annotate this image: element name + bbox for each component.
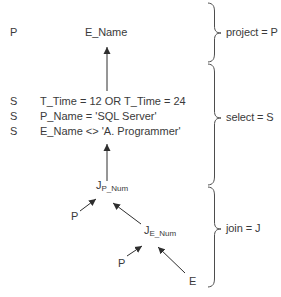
select-condition: E_Name <> 'A. Programmer' [40,125,181,137]
join-subscript: E_Num [149,229,176,238]
legend-join-label: join = J [226,222,260,235]
project-operator: P [10,26,17,39]
select-row: SP_Name = 'SQL Server' [10,110,157,123]
select-operator: S [10,110,40,123]
project-attribute: E_Name [85,26,127,39]
join-subscript: P_Num [101,184,128,193]
brace-select [208,64,221,185]
diagram-canvas [0,0,281,297]
leaf-relation-p2: P [118,257,125,270]
select-operator: S [10,95,40,108]
join-node-enum: JE_Num [144,224,176,240]
legend-project-label: project = P [226,26,278,39]
brace-project [208,3,221,62]
arrow-e-to-join2 [158,247,185,273]
leaf-relation-e: E [189,275,196,288]
brace-join [208,187,221,287]
arrow-p1-to-join1 [80,199,96,211]
legend-select-label: select = S [226,111,274,124]
arrow-p2-to-join2 [127,246,142,256]
leaf-relation-p1: P [71,210,78,223]
select-operator: S [10,125,40,138]
select-condition: P_Name = 'SQL Server' [40,110,157,122]
query-tree-diagram: P E_Name ST_Time = 12 OR T_Time = 24 SP_… [0,0,281,297]
select-row: SE_Name <> 'A. Programmer' [10,125,181,138]
select-condition: T_Time = 12 OR T_Time = 24 [40,95,186,107]
arrow-join2-to-join1 [113,203,141,224]
join-node-pnum: JP_Num [96,179,128,195]
select-row: ST_Time = 12 OR T_Time = 24 [10,95,186,108]
